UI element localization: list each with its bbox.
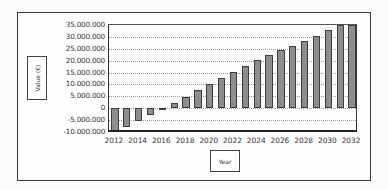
y-tick-label: -5.000.000: [68, 115, 105, 124]
bar-2022: [230, 72, 237, 108]
y-tick-label: 25.000.000: [66, 43, 105, 52]
x-axis-label-box: Year: [210, 150, 240, 172]
gridline: [109, 120, 356, 121]
bar-2026: [277, 50, 284, 108]
x-tick-label: 2020: [199, 136, 218, 145]
bar-2030: [325, 30, 332, 108]
bar-2018: [182, 97, 189, 108]
y-tick-label: 35.000.000: [66, 20, 105, 29]
x-tick-label: 2032: [342, 136, 361, 145]
y-tick-label: 0: [101, 103, 105, 112]
bar-2032: [348, 25, 355, 108]
bar-2015: [147, 108, 154, 115]
x-tick-label: 2024: [247, 136, 266, 145]
y-tick-label: 10.000.000: [66, 79, 105, 88]
x-tick-label: 2030: [318, 136, 337, 145]
y-tick-label: 5.000.000: [70, 91, 105, 100]
x-axis-label: Year: [219, 158, 232, 165]
bar-2024: [254, 60, 261, 108]
bar-2013: [123, 108, 130, 127]
bar-2019: [194, 90, 201, 108]
bar-2021: [218, 78, 225, 108]
bar-2014: [135, 108, 142, 120]
x-tick-label: 2018: [176, 136, 195, 145]
y-tick-label: 15.000.000: [66, 67, 105, 76]
x-tick-label: 2012: [105, 136, 124, 145]
x-axis-line: [108, 130, 357, 132]
y-tick-label: 20.000.000: [66, 55, 105, 64]
x-tick-label: 2022: [223, 136, 242, 145]
bar-2025: [265, 55, 272, 108]
x-tick-label: 2014: [128, 136, 147, 145]
bar-2029: [313, 36, 320, 109]
x-tick-label: 2016: [152, 136, 171, 145]
bar-2028: [301, 41, 308, 109]
bar-2017: [171, 103, 178, 108]
bar-2016: [159, 108, 166, 110]
plot-area: [108, 24, 357, 131]
bar-2031: [337, 25, 344, 108]
y-tick-label: 30.000.000: [66, 31, 105, 40]
bar-2012: [111, 108, 118, 132]
x-tick-label: 2026: [271, 136, 290, 145]
bar-2023: [242, 66, 249, 108]
y-axis-label-box: Value (€): [27, 56, 47, 100]
y-tick-label: -10.000.000: [63, 127, 105, 136]
bar-2027: [289, 46, 296, 109]
y-axis-label: Value (€): [34, 65, 41, 92]
x-tick-label: 2028: [294, 136, 313, 145]
bar-2020: [206, 84, 213, 108]
